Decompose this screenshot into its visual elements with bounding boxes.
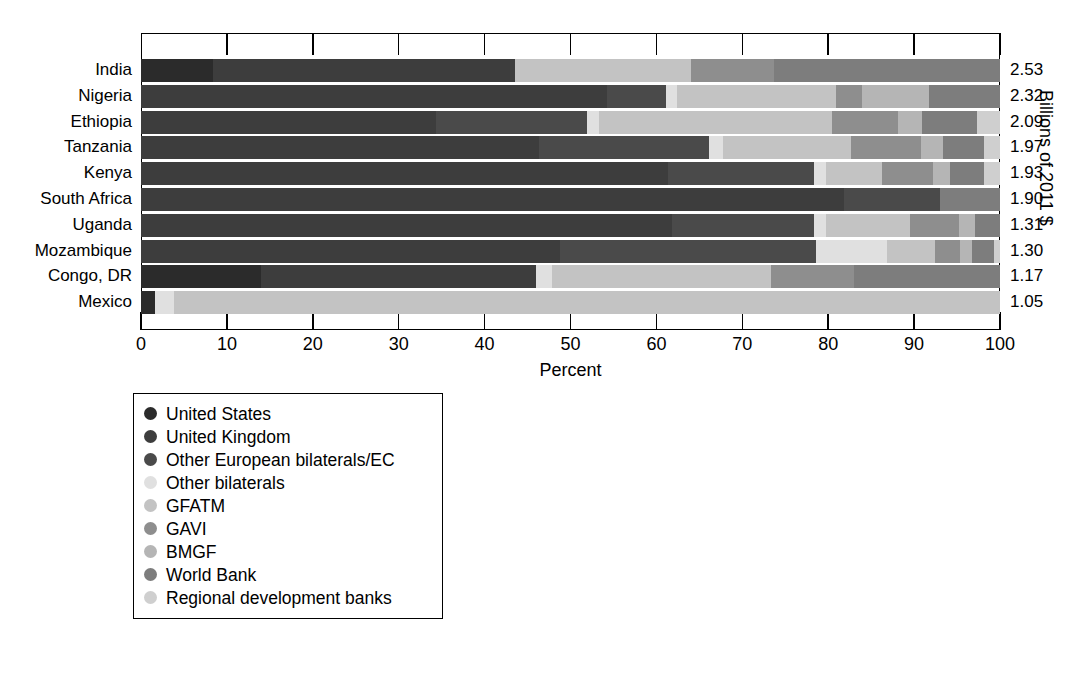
- category-label: Mexico: [0, 292, 132, 312]
- bar-segment: [141, 136, 539, 159]
- bar-segment: [832, 111, 897, 134]
- bar-segment: [599, 111, 833, 134]
- bar-segment: [921, 136, 943, 159]
- bar-segment: [141, 291, 155, 314]
- legend-item: GFATM: [144, 494, 432, 517]
- bar-segment: [959, 214, 975, 237]
- legend-swatch-icon: [144, 522, 157, 535]
- category-label: India: [0, 60, 132, 80]
- bar-row: [141, 136, 1000, 159]
- legend-label: BMGF: [166, 542, 217, 562]
- legend-swatch-icon: [144, 453, 157, 466]
- bar-segment: [882, 162, 933, 185]
- bar-segment: [816, 240, 887, 263]
- value-label: 1.05: [1010, 292, 1043, 312]
- bar-segment: [984, 162, 1000, 185]
- bar-row: [141, 162, 1000, 185]
- bar-segment: [814, 162, 827, 185]
- bar-segment: [677, 85, 836, 108]
- legend-swatch-icon: [144, 430, 157, 443]
- bar-segment: [774, 59, 1000, 82]
- bar-row: [141, 291, 1000, 314]
- bar-row: [141, 111, 1000, 134]
- legend-item: Other bilaterals: [144, 471, 432, 494]
- stacked-bar-chart: IndiaNigeriaEthiopiaTanzaniaKenyaSouth A…: [0, 0, 1092, 686]
- x-tick-label-20: 20: [303, 333, 323, 355]
- bar-segment: [826, 214, 910, 237]
- bar-segment: [536, 265, 551, 288]
- category-label: Tanzania: [0, 137, 132, 157]
- bar-segment: [560, 240, 816, 263]
- bar-segment: [854, 265, 1000, 288]
- category-label: Kenya: [0, 163, 132, 183]
- bar-segment: [975, 214, 1000, 237]
- value-label: 1.17: [1010, 266, 1043, 286]
- bar-segment: [587, 111, 599, 134]
- bar-segment: [977, 111, 1000, 134]
- bar-segment: [826, 162, 882, 185]
- bar-segment: [672, 214, 815, 237]
- bar-segment: [972, 240, 993, 263]
- bar-segment: [213, 59, 515, 82]
- bar-segment: [943, 136, 984, 159]
- bar-segment: [851, 136, 921, 159]
- bar-segment: [141, 162, 668, 185]
- bar-segment: [922, 111, 977, 134]
- bar-segment: [141, 265, 261, 288]
- value-label: 1.30: [1010, 241, 1043, 261]
- bar-segment: [929, 85, 1000, 108]
- x-tick-label-0: 0: [136, 333, 146, 355]
- bar-segment: [141, 240, 560, 263]
- bar-row: [141, 59, 1000, 82]
- x-axis-title: Percent: [141, 360, 1000, 381]
- bar-segment: [950, 162, 984, 185]
- value-label: 2.53: [1010, 60, 1043, 80]
- x-tick-label-50: 50: [560, 333, 580, 355]
- legend-label: Other bilaterals: [166, 473, 285, 493]
- x-tick-label-60: 60: [646, 333, 666, 355]
- bar-segment: [709, 136, 724, 159]
- bar-segment: [910, 214, 959, 237]
- bar-row: [141, 240, 1000, 263]
- legend-label: Other European bilaterals/EC: [166, 450, 395, 470]
- bar-row: [141, 214, 1000, 237]
- right-axis-title: Billions of 2011 $: [1035, 90, 1056, 226]
- bar-segment: [261, 265, 536, 288]
- legend-item: World Bank: [144, 563, 432, 586]
- legend-swatch-icon: [144, 591, 157, 604]
- bar-segment: [844, 188, 940, 211]
- category-label: Ethiopia: [0, 112, 132, 132]
- legend-label: GAVI: [166, 519, 207, 539]
- category-label: Uganda: [0, 215, 132, 235]
- bar-segment: [994, 240, 1000, 263]
- legend-item: United Kingdom: [144, 425, 432, 448]
- bar-segment: [887, 240, 934, 263]
- legend-swatch-icon: [144, 499, 157, 512]
- bar-segment: [836, 85, 862, 108]
- x-tick-label-90: 90: [904, 333, 924, 355]
- x-tick-label-80: 80: [818, 333, 838, 355]
- category-label: Nigeria: [0, 86, 132, 106]
- legend-item: GAVI: [144, 517, 432, 540]
- x-tick-label-100: 100: [985, 333, 1015, 355]
- category-label: South Africa: [0, 189, 132, 209]
- bar-segment: [539, 136, 709, 159]
- bar-segment: [935, 240, 960, 263]
- category-label: Mozambique: [0, 241, 132, 261]
- x-tick-label-10: 10: [217, 333, 237, 355]
- legend-swatch-icon: [144, 407, 157, 420]
- bar-segment: [771, 265, 853, 288]
- legend-label: United Kingdom: [166, 427, 291, 447]
- bar-row: [141, 265, 1000, 288]
- x-tick-label-70: 70: [732, 333, 752, 355]
- bar-segment: [984, 136, 999, 159]
- legend-item: Other European bilaterals/EC: [144, 448, 432, 471]
- legend-swatch-icon: [144, 476, 157, 489]
- x-tick-label-40: 40: [475, 333, 495, 355]
- legend-label: GFATM: [166, 496, 225, 516]
- bar-segment: [141, 59, 213, 82]
- legend: United StatesUnited KingdomOther Europea…: [133, 393, 443, 619]
- bar-segment: [141, 214, 672, 237]
- category-label: Congo, DR: [0, 266, 132, 286]
- bar-row: [141, 188, 1000, 211]
